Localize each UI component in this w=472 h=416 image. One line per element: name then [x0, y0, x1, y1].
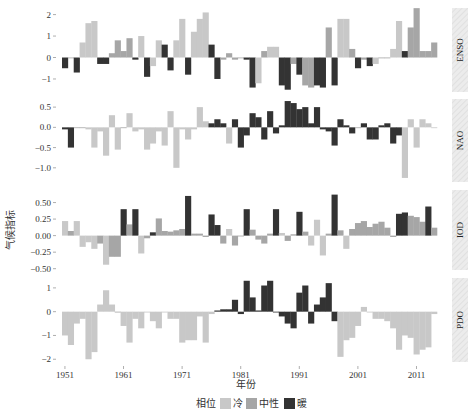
facet-strip-label: NAO: [455, 130, 465, 150]
bar: [302, 286, 308, 312]
bar: [132, 312, 138, 319]
bar: [355, 58, 361, 69]
bar: [68, 127, 74, 147]
bar: [390, 49, 396, 58]
x-tick-label: 1971: [173, 370, 191, 380]
bar: [191, 312, 197, 341]
bar: [138, 127, 144, 129]
bar: [332, 195, 338, 236]
bar: [150, 127, 156, 143]
bar: [349, 49, 355, 58]
legend-swatch-cold: [220, 398, 231, 409]
bar: [167, 111, 173, 127]
bar: [390, 312, 396, 329]
bar: [419, 312, 425, 350]
bar: [291, 58, 297, 64]
bar: [314, 220, 320, 236]
bar: [191, 127, 197, 129]
y-tick-label: −0.5: [35, 143, 52, 153]
x-tick-label: 1991: [290, 370, 308, 380]
x-tick-label: 2001: [349, 370, 367, 380]
bar: [378, 58, 384, 59]
bar: [179, 312, 185, 343]
bar: [91, 236, 97, 249]
bar: [425, 123, 431, 127]
bar: [431, 127, 437, 128]
bar: [214, 225, 220, 236]
bar: [279, 233, 285, 236]
bar: [68, 231, 74, 236]
bar: [220, 236, 226, 244]
bar: [68, 58, 74, 59]
bar: [384, 228, 390, 236]
y-tick-label: 0.25: [35, 214, 51, 224]
climate-index-faceted-bar-chart: 210−1ENSO0.50.0−0.5−1.0NAO0.500.250.00−0…: [0, 0, 472, 416]
bar: [408, 119, 414, 127]
bar: [255, 117, 261, 127]
facet-panels: 210−1ENSO0.50.0−0.5−1.0NAO0.500.250.00−0…: [30, 8, 468, 364]
panel-nao: 0.50.0−0.5−1.0NAO: [35, 99, 468, 182]
bar: [414, 127, 420, 147]
bar: [179, 229, 185, 236]
bar: [179, 19, 185, 58]
bar: [337, 19, 343, 58]
y-tick-label: 2: [47, 10, 52, 20]
y-tick-label: −0.50: [30, 264, 51, 274]
bar: [408, 216, 414, 236]
bar: [74, 312, 80, 324]
bar: [308, 312, 314, 324]
bar: [185, 127, 191, 139]
bar: [332, 312, 338, 322]
bar: [384, 312, 390, 322]
bar: [343, 125, 349, 127]
bar: [132, 127, 138, 131]
bar: [343, 236, 349, 249]
bar: [361, 123, 367, 127]
bar: [220, 123, 226, 127]
bar: [232, 300, 238, 312]
bar: [126, 224, 132, 235]
bar: [267, 234, 273, 236]
bar: [238, 58, 244, 59]
bar: [326, 283, 332, 312]
bar: [261, 286, 267, 312]
bar: [261, 51, 267, 57]
bar: [320, 297, 326, 311]
bar: [396, 312, 402, 350]
bar: [367, 227, 373, 236]
panel-enso: 210−1ENSO: [41, 8, 468, 92]
bar: [85, 127, 91, 129]
bar: [349, 312, 355, 338]
y-tick-label: 1: [47, 31, 52, 41]
bar: [197, 234, 203, 236]
bar: [273, 209, 279, 235]
bar: [431, 42, 437, 57]
bar: [261, 127, 267, 139]
bar: [91, 127, 97, 147]
bar: [80, 312, 86, 319]
bar: [121, 209, 127, 235]
legend: 相位 冷 中性 暖: [196, 397, 307, 409]
bar: [173, 40, 179, 57]
bar: [267, 47, 273, 58]
bar: [185, 58, 191, 75]
bar: [162, 127, 168, 145]
bar: [103, 127, 109, 155]
bar: [109, 115, 115, 127]
bar: [408, 312, 414, 338]
bar: [144, 236, 150, 239]
bar: [431, 312, 437, 314]
bar: [373, 312, 379, 319]
bar: [167, 58, 173, 71]
bar: [197, 107, 203, 127]
facet-strip-label: PDO: [455, 311, 465, 330]
bar: [285, 58, 291, 90]
bar: [80, 127, 86, 128]
bar: [232, 119, 238, 127]
y-tick-label: −1: [41, 330, 51, 340]
bar: [185, 312, 191, 341]
bar: [250, 297, 256, 311]
y-tick-label: 0.50: [35, 198, 51, 208]
panel-pdo: 10−1−2PDO: [41, 278, 468, 364]
x-axis: 1951196119711981199120012011: [56, 366, 425, 380]
